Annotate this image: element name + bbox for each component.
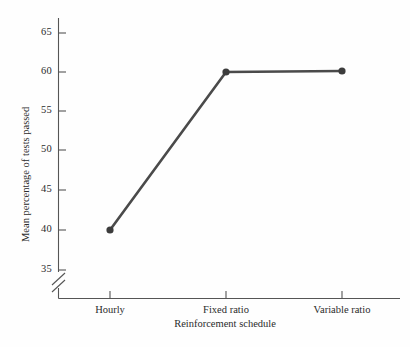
y-axis-title: Mean percentage of tests passed	[20, 107, 31, 242]
x-tick-marks	[110, 291, 342, 299]
y-tick-label-55: 55	[30, 104, 52, 115]
x-axis-title: Reinforcement schedule	[174, 318, 276, 329]
x-tick-label-variable-ratio: Variable ratio	[314, 304, 371, 315]
y-tick-label-60: 60	[30, 65, 52, 76]
data-point-markers	[106, 67, 345, 233]
data-point-fixed-ratio	[222, 68, 229, 75]
data-point-variable-ratio	[338, 67, 345, 74]
data-point-hourly	[106, 226, 113, 233]
y-tick-label-50: 50	[30, 143, 52, 154]
chart-figure: 65 60 55 50 45 40 35 Hourly Fixed ratio …	[0, 0, 410, 347]
y-tick-label-45: 45	[30, 183, 52, 194]
y-tick-marks	[59, 33, 67, 270]
y-tick-label-40: 40	[30, 223, 52, 234]
x-tick-label-hourly: Hourly	[95, 304, 125, 315]
data-series-line	[110, 71, 342, 230]
y-tick-label-35: 35	[30, 263, 52, 274]
line-chart-plot	[0, 0, 410, 347]
x-tick-label-fixed-ratio: Fixed ratio	[203, 304, 249, 315]
y-tick-label-65: 65	[30, 26, 52, 37]
